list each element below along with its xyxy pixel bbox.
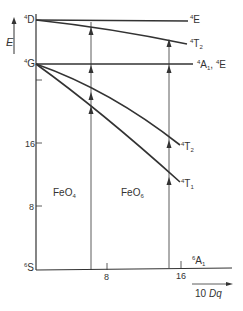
label-4T2-upper: 4T2	[190, 39, 203, 50]
label-4T2-lower: 4T2	[181, 142, 194, 153]
y-tick-label-16: 16	[25, 139, 35, 149]
level-4T2-upper	[36, 20, 187, 44]
label-4E: 4E	[190, 15, 200, 26]
y-axis-label: E	[6, 37, 13, 47]
term-4D: 4D	[24, 15, 35, 26]
level-6A1	[36, 268, 232, 270]
label-4T1: 4T1	[181, 179, 194, 190]
level-4E	[36, 20, 188, 21]
level-4T2-lower	[36, 64, 180, 145]
term-6S: 6S	[24, 263, 34, 274]
site-label-feo6: FeO6	[121, 188, 144, 199]
level-4T1	[36, 64, 180, 182]
x-tick-label-8: 8	[104, 272, 109, 282]
x-tick-label-16: 16	[176, 271, 186, 281]
label-4A1-4E: 4A1, 4E	[197, 60, 226, 71]
site-label-feo4: FeO4	[53, 188, 76, 199]
term-4G: 4G	[24, 59, 35, 70]
y-tick-label-8: 8	[29, 202, 34, 212]
diagram-lines	[0, 0, 243, 311]
x-axis-label: 10 Dq	[195, 289, 222, 299]
label-6A1: 6A1	[192, 256, 205, 267]
energy-level-diagram: E 4D 4G 6S 16 8 8 16 4E 4T2 4A1, 4E 4T2 …	[0, 0, 243, 311]
